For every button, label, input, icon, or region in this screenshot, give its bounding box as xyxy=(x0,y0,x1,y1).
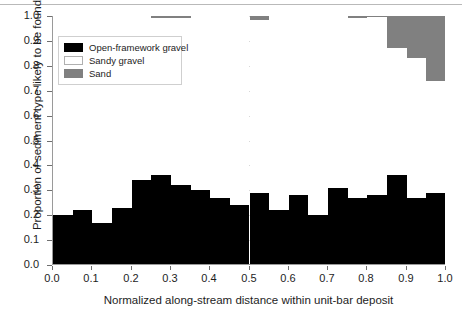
chart-figure: Proportion of sediment type likely to be… xyxy=(0,0,462,320)
bar-segment-sand xyxy=(250,16,270,20)
y-tick-label: 0.4 xyxy=(9,159,39,170)
bar-segment-open-framework-gravel xyxy=(269,210,289,265)
figure-top-rule xyxy=(0,4,462,5)
bar-stack xyxy=(328,16,348,264)
bar-segment-open-framework-gravel xyxy=(250,193,270,265)
x-tick-mark xyxy=(52,266,53,270)
legend-item-sand: Sand xyxy=(64,67,176,80)
legend-label: Sand xyxy=(89,68,111,79)
bar-segment-open-framework-gravel xyxy=(191,190,211,265)
bar-segment-sandy-gravel xyxy=(426,81,445,193)
legend-swatch-black-icon xyxy=(64,43,83,52)
bar-segment-open-framework-gravel xyxy=(289,195,309,265)
bar-stack xyxy=(269,16,289,264)
bar-stack xyxy=(308,16,328,264)
x-tick-label: 0.9 xyxy=(386,272,426,284)
legend-swatch-white-icon xyxy=(64,56,83,65)
y-tick-label: 0.6 xyxy=(9,110,39,121)
bar-stack xyxy=(426,16,445,264)
y-tick-label: 1.0 xyxy=(9,10,39,21)
bar-segment-sand xyxy=(348,16,368,18)
bar-segment-open-framework-gravel xyxy=(210,198,230,265)
bar-stack xyxy=(367,16,387,264)
bar-segment-sand xyxy=(407,16,427,58)
bar-stack xyxy=(250,16,270,264)
legend-item-open-framework-gravel: Open-framework gravel xyxy=(64,41,176,54)
x-tick-label: 0.6 xyxy=(268,272,308,284)
y-tick-label: 0.3 xyxy=(9,184,39,195)
x-tick-label: 0.5 xyxy=(229,272,269,284)
y-tick-label: 0.7 xyxy=(9,85,39,96)
bar-segment-sand xyxy=(151,16,171,18)
bar-segment-sand xyxy=(367,16,387,17)
x-tick-label: 0.2 xyxy=(111,272,151,284)
x-axis-title: Normalized along-stream distance within … xyxy=(52,294,445,306)
bar-segment-open-framework-gravel xyxy=(151,175,171,265)
bar-segment-sandy-gravel xyxy=(250,20,270,193)
bar-segment-sandy-gravel xyxy=(269,16,289,210)
bar-stack xyxy=(289,16,309,264)
bar-segment-open-framework-gravel xyxy=(328,188,348,265)
bar-segment-sandy-gravel xyxy=(328,16,348,188)
bar-segment-sand xyxy=(387,16,407,48)
bar-stack xyxy=(387,16,407,264)
x-tick-label: 0.1 xyxy=(71,272,111,284)
bar-segment-open-framework-gravel xyxy=(53,215,73,265)
x-tick-label: 0.8 xyxy=(346,272,386,284)
bar-stack xyxy=(348,16,368,264)
x-tick-mark xyxy=(366,266,367,270)
bar-segment-open-framework-gravel xyxy=(387,175,407,265)
bar-stack xyxy=(191,16,211,264)
bar-segment-sandy-gravel xyxy=(348,18,368,197)
bar-segment-open-framework-gravel xyxy=(230,205,250,265)
y-tick-label: 0.1 xyxy=(9,234,39,245)
legend-label: Open-framework gravel xyxy=(89,42,188,53)
bar-segment-open-framework-gravel xyxy=(426,193,445,265)
x-tick-mark xyxy=(327,266,328,270)
bar-segment-open-framework-gravel xyxy=(112,208,132,265)
x-tick-mark xyxy=(249,266,250,270)
bar-segment-open-framework-gravel xyxy=(132,180,152,265)
x-tick-mark xyxy=(91,266,92,270)
x-tick-mark xyxy=(170,266,171,270)
x-tick-mark xyxy=(209,266,210,270)
legend-swatch-gray-icon xyxy=(64,69,83,78)
x-tick-label: 1.0 xyxy=(425,272,462,284)
x-tick-label: 0.4 xyxy=(189,272,229,284)
y-tick-label: 0.5 xyxy=(9,135,39,146)
bar-segment-sandy-gravel xyxy=(289,16,309,195)
x-tick-mark xyxy=(288,266,289,270)
y-tick-label: 0.0 xyxy=(9,259,39,270)
y-tick-label: 0.8 xyxy=(9,60,39,71)
x-tick-mark xyxy=(445,266,446,270)
bar-segment-open-framework-gravel xyxy=(171,185,191,265)
bar-segment-sandy-gravel xyxy=(210,16,230,198)
bar-segment-open-framework-gravel xyxy=(308,215,328,265)
bar-segment-sandy-gravel xyxy=(367,17,387,195)
bar-segment-open-framework-gravel xyxy=(348,198,368,265)
bar-segment-open-framework-gravel xyxy=(73,210,93,265)
x-tick-mark xyxy=(131,266,132,270)
x-tick-mark xyxy=(406,266,407,270)
bar-stack xyxy=(210,16,230,264)
x-tick-label: 0.0 xyxy=(32,272,72,284)
bar-segment-open-framework-gravel xyxy=(92,223,112,265)
bar-segment-sand xyxy=(426,16,445,81)
bar-segment-sandy-gravel xyxy=(387,48,407,175)
bar-segment-sand xyxy=(171,16,191,18)
bar-segment-sandy-gravel xyxy=(230,16,250,205)
x-tick-label: 0.3 xyxy=(150,272,190,284)
x-tick-label: 0.7 xyxy=(307,272,347,284)
bar-segment-open-framework-gravel xyxy=(407,198,427,265)
legend-item-sandy-gravel: Sandy gravel xyxy=(64,54,176,67)
chart-legend: Open-framework gravel Sandy gravel Sand xyxy=(58,36,182,85)
bar-segment-sandy-gravel xyxy=(191,16,211,190)
bar-segment-open-framework-gravel xyxy=(367,195,387,265)
y-tick-label: 0.2 xyxy=(9,209,39,220)
bar-segment-sandy-gravel xyxy=(407,58,427,197)
bar-stack xyxy=(407,16,427,264)
bar-stack xyxy=(230,16,250,264)
y-tick-label: 0.9 xyxy=(9,35,39,46)
legend-label: Sandy gravel xyxy=(89,55,144,66)
bar-segment-sandy-gravel xyxy=(308,16,328,215)
